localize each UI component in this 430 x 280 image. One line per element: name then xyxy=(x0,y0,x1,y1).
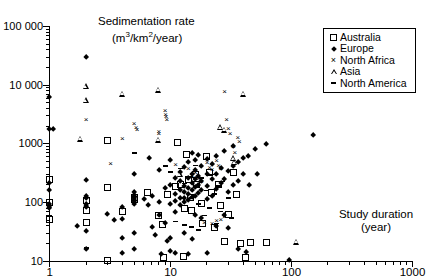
data-point-europe xyxy=(209,176,215,182)
x-tick-minor xyxy=(158,261,159,265)
data-point-europe xyxy=(240,171,246,177)
y-tick-minor xyxy=(46,243,51,244)
data-point-australia xyxy=(104,137,111,144)
data-point-australia xyxy=(263,239,270,246)
y-axis-title: Sedimentation rate (m3/km2/year) xyxy=(98,15,195,45)
data-point-australia xyxy=(233,191,240,198)
data-point-north-america xyxy=(182,183,187,185)
x-tick-minor xyxy=(327,261,328,265)
legend-item-asia[interactable]: Asia xyxy=(328,66,413,77)
data-point-north-america xyxy=(178,168,183,170)
data-point-europe xyxy=(222,148,228,154)
data-point-europe xyxy=(263,141,269,147)
y-tick-minor xyxy=(46,161,51,162)
data-point-north-america xyxy=(204,190,209,192)
x-tick-minor xyxy=(285,261,286,265)
data-point-europe xyxy=(131,171,137,177)
data-point-europe xyxy=(156,199,162,205)
data-point-australia xyxy=(104,184,111,191)
data-point-australia xyxy=(221,238,228,245)
data-point-north-america xyxy=(173,221,178,223)
data-point-europe xyxy=(104,211,110,217)
data-point-asia xyxy=(83,97,89,103)
data-point-north-america xyxy=(207,207,212,209)
y-tick-minor xyxy=(46,146,51,147)
data-point-europe xyxy=(46,188,52,194)
legend-marker-dash-icon xyxy=(328,78,339,89)
y-tick-minor xyxy=(46,108,51,109)
data-point-europe xyxy=(181,230,187,236)
data-point-north-america xyxy=(189,197,194,199)
x-tick-minor xyxy=(385,261,386,265)
data-point-europe xyxy=(131,230,137,236)
data-point-north-america xyxy=(218,211,223,213)
data-point-north-america xyxy=(84,247,89,249)
data-point-europe xyxy=(204,250,210,256)
data-point-asia xyxy=(231,159,237,165)
data-point-australia xyxy=(104,257,111,264)
x-tick-minor xyxy=(376,261,377,265)
y-tick-minor xyxy=(46,149,51,150)
y-axis-title-line1: Sedimentation rate xyxy=(98,15,195,27)
y-unit-post: /year) xyxy=(153,32,182,44)
data-point-north-america xyxy=(214,223,219,225)
data-point-north-america xyxy=(199,177,204,179)
y-tick-minor xyxy=(46,49,51,50)
sedimentation-rate-scatter-chart: Sedimentation rate (m3/km2/year) Study d… xyxy=(0,0,430,280)
data-point-north-america xyxy=(202,215,207,217)
y-tick-minor xyxy=(46,156,51,157)
data-point-europe xyxy=(74,223,80,229)
data-point-europe xyxy=(83,54,89,60)
legend-marker-filled-diamond-icon xyxy=(328,43,339,54)
y-tick-minor xyxy=(46,211,51,212)
y-tick-minor xyxy=(46,44,51,45)
data-point-north-africa: × xyxy=(107,160,114,167)
x-tick-minor xyxy=(86,261,87,265)
y-tick-minor xyxy=(46,39,51,40)
data-point-asia xyxy=(240,91,246,97)
data-point-north-africa: × xyxy=(227,130,234,137)
data-point-north-america xyxy=(168,171,173,173)
data-point-europe xyxy=(50,126,56,132)
x-tick-minor xyxy=(122,261,123,265)
chart-legend: AustraliaEurope×North AfricaAsiaNorth Am… xyxy=(323,28,416,93)
legend-marker-open-square-icon xyxy=(328,32,339,43)
x-tick-minor xyxy=(393,261,394,265)
data-point-europe xyxy=(119,216,125,222)
y-tick-minor xyxy=(46,102,51,103)
legend-label: Asia xyxy=(339,66,360,77)
data-point-north-america xyxy=(193,165,198,167)
x-axis-title-line2: (year) xyxy=(328,221,424,234)
legend-item-north-america[interactable]: North America xyxy=(328,78,413,89)
data-point-asia xyxy=(155,87,161,93)
data-point-europe xyxy=(225,189,231,195)
data-point-australia xyxy=(230,169,237,176)
y-unit-mid: /km xyxy=(130,32,149,44)
y-tick-minor xyxy=(46,87,51,88)
y-tick-minor xyxy=(46,152,51,153)
data-point-europe xyxy=(245,153,251,159)
data-point-europe xyxy=(246,182,252,188)
data-point-north-africa: × xyxy=(217,165,224,172)
data-point-europe xyxy=(172,251,178,257)
data-point-north-africa: × xyxy=(134,126,141,133)
data-point-asia xyxy=(155,137,161,143)
data-point-europe xyxy=(146,156,152,162)
data-point-europe xyxy=(145,202,151,208)
data-point-asia xyxy=(83,83,89,89)
x-tick-minor xyxy=(165,261,166,265)
y-tick-major xyxy=(43,143,50,144)
data-point-australia xyxy=(164,191,171,198)
y-tick-minor xyxy=(46,167,51,168)
x-axis-title: Study duration (year) xyxy=(328,208,424,234)
data-point-north-africa: × xyxy=(163,116,170,123)
data-point-north-america xyxy=(229,217,234,219)
y-tick-label: 100 xyxy=(1,197,43,208)
data-point-north-america xyxy=(212,193,217,195)
data-point-north-america xyxy=(220,181,225,183)
data-point-europe xyxy=(310,132,316,138)
data-point-europe xyxy=(167,235,173,241)
data-point-north-america xyxy=(226,197,231,199)
legend-label: North America xyxy=(339,78,407,89)
x-tick-minor xyxy=(406,261,407,265)
